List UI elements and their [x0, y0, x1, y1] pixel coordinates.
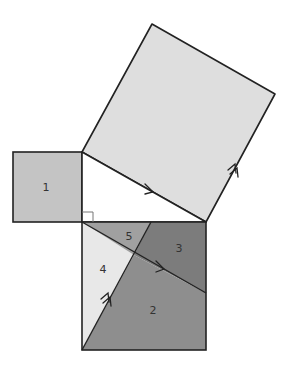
pythagorean-diagram: 1 2 3 4 5	[0, 0, 286, 369]
label-piece-5: 5	[126, 230, 133, 243]
label-piece-3: 3	[176, 242, 183, 255]
label-piece-4: 4	[100, 263, 107, 276]
label-piece-1: 1	[43, 181, 50, 194]
label-piece-2: 2	[150, 304, 157, 317]
